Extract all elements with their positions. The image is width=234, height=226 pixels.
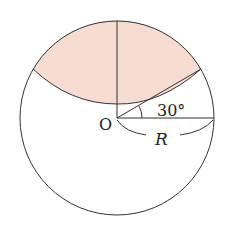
radius-dimension-right <box>180 120 213 135</box>
diagram: O 30° R <box>0 0 234 226</box>
angle-label: 30° <box>157 101 185 120</box>
angle-arc <box>139 106 142 118</box>
radius-dimension-left <box>117 120 146 135</box>
circle-diagram: O 30° R <box>0 0 234 226</box>
center-label: O <box>99 115 112 134</box>
radius-label: R <box>154 129 168 149</box>
